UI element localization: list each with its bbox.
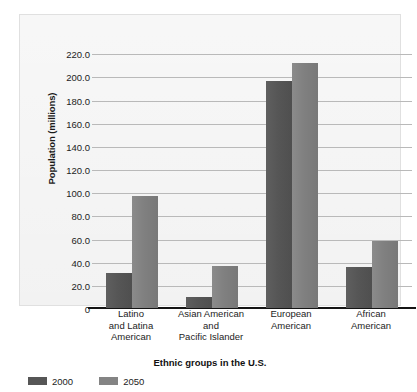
bar-2050-1	[132, 196, 158, 308]
gridline	[92, 147, 412, 148]
category-label-line: African	[323, 308, 417, 320]
x-axis-title: Ethnic groups in the U.S.	[19, 357, 401, 368]
y-axis-tick-label: 160.0	[44, 118, 90, 129]
y-axis-tick-label: 140.0	[44, 141, 90, 152]
chart-legend: 20002050	[28, 375, 170, 387]
gridline	[92, 77, 412, 78]
y-axis-tick-label: 200.0	[44, 72, 90, 83]
bar-2000-1	[106, 273, 132, 308]
y-axis-tick-label: 80.0	[44, 211, 90, 222]
legend-label-2050: 2050	[123, 376, 144, 387]
category-label-line: American	[323, 320, 417, 332]
legend-swatch-2050	[99, 377, 118, 385]
gridline	[92, 124, 412, 125]
category-label-4: AfricanAmerican	[323, 308, 417, 331]
legend-swatch-2000	[28, 377, 47, 385]
bar-2000-3	[266, 81, 292, 308]
y-axis-tick-label: 220.0	[44, 49, 90, 60]
population-bar-chart: Population (millions) 020.040.060.080.01…	[0, 0, 417, 392]
legend-label-2000: 2000	[52, 376, 73, 387]
bar-2050-4	[372, 241, 398, 308]
legend-item-2000[interactable]: 2000	[28, 376, 73, 387]
gridline	[92, 54, 412, 55]
chart-plot-panel: Population (millions) 020.040.060.080.01…	[19, 14, 401, 306]
bar-2050-2	[212, 266, 238, 308]
y-axis-tick-label: 180.0	[44, 95, 90, 106]
bar-2050-3	[292, 63, 318, 308]
y-axis-tick-label: 100.0	[44, 188, 90, 199]
y-axis-tick-label: 40.0	[44, 257, 90, 268]
y-axis-tick-label: 120.0	[44, 165, 90, 176]
x-axis-category-labels: Latinoand LatinaAmericanAsian Americanan…	[19, 308, 401, 356]
gridline	[92, 193, 412, 194]
gridline	[92, 170, 412, 171]
y-axis-tick-label: 20.0	[44, 280, 90, 291]
legend-item-2050[interactable]: 2050	[99, 376, 144, 387]
bar-2000-2	[186, 297, 212, 308]
plot-area: 020.040.060.080.0100.0120.0140.0160.0180…	[92, 45, 412, 309]
bar-2000-4	[346, 267, 372, 308]
y-axis-tick-label: 60.0	[44, 234, 90, 245]
category-label-line: Pacific Islander	[163, 331, 259, 343]
gridline	[92, 101, 412, 102]
